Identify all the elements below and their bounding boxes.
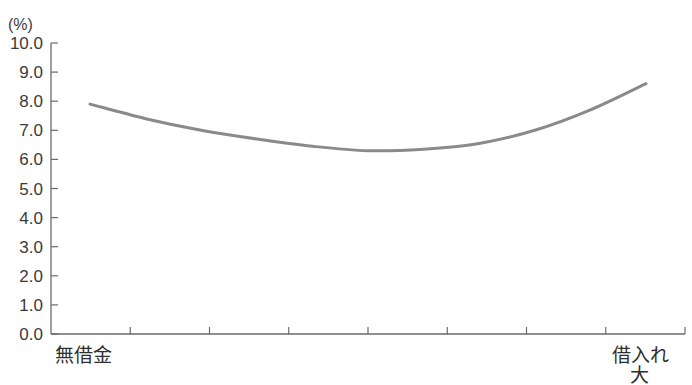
y-tick-label: 3.0 — [19, 238, 43, 257]
y-tick-label: 9.0 — [19, 63, 43, 82]
line-chart: (%) 0.01.02.03.04.05.06.07.08.09.010.0 無… — [0, 0, 692, 385]
x-axis — [51, 327, 685, 334]
y-tick-label: 10.0 — [10, 34, 43, 53]
x-label-high-debt-line2: 大 — [630, 364, 649, 385]
y-tick-label: 8.0 — [19, 92, 43, 111]
x-label-high-debt-line1: 借入れ — [612, 344, 669, 366]
y-tick-label: 4.0 — [19, 209, 43, 228]
y-tick-label: 5.0 — [19, 180, 43, 199]
y-axis: 0.01.02.03.04.05.06.07.08.09.010.0 — [10, 34, 58, 344]
y-tick-label: 7.0 — [19, 121, 43, 140]
y-axis-unit: (%) — [8, 16, 33, 33]
y-tick-label: 2.0 — [19, 267, 43, 286]
x-label-no-debt: 無借金 — [55, 344, 112, 366]
data-line — [90, 84, 646, 151]
y-tick-label: 0.0 — [19, 325, 43, 344]
y-tick-label: 1.0 — [19, 296, 43, 315]
y-tick-label: 6.0 — [19, 150, 43, 169]
